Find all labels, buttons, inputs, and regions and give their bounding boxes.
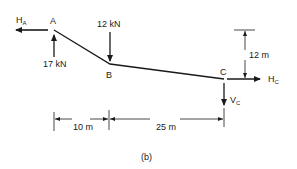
label-vc: VC xyxy=(230,95,241,106)
label-17kn: 17 kN xyxy=(43,59,67,69)
cable-line xyxy=(54,30,224,79)
label-hc: HC xyxy=(268,74,280,85)
label-dim-25m: 25 m xyxy=(156,122,176,132)
cable-diagram: A B C HA 17 kN 12 kN HC VC 12 m 10 m 25 … xyxy=(0,0,297,169)
figure-caption: (b) xyxy=(141,152,152,162)
label-c: C xyxy=(220,67,227,77)
label-dim-10m: 10 m xyxy=(73,122,93,132)
label-12kn: 12 kN xyxy=(97,19,121,29)
label-a: A xyxy=(50,16,56,26)
label-dim-12m: 12 m xyxy=(249,50,269,60)
label-ha: HA xyxy=(16,15,27,26)
label-b: B xyxy=(106,70,112,80)
